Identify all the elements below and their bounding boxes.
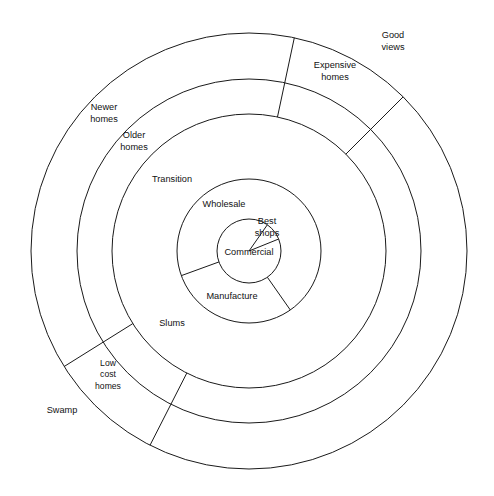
zone-label-expensive-homes-line-2: homes bbox=[321, 72, 349, 82]
zone-label-newer-homes: Newerhomes bbox=[90, 103, 118, 125]
zone-label-older-homes-line-2: homes bbox=[120, 142, 148, 152]
zone-label-swamp: Swamp bbox=[47, 405, 78, 415]
zone-label-newer-homes-line-1: Newer bbox=[91, 103, 118, 113]
zone-label-swamp-line-1: Swamp bbox=[47, 405, 78, 415]
zone-label-good-views-line-2: views bbox=[382, 42, 405, 52]
zone-label-older-homes: Olderhomes bbox=[120, 131, 148, 153]
zone-label-older-homes-line-1: Older bbox=[123, 131, 145, 141]
zone-label-slums-line-1: Slums bbox=[159, 318, 185, 328]
zone-label-good-views-line-1: Good bbox=[382, 31, 404, 41]
zone-label-best-shops: Bestshops bbox=[255, 217, 280, 239]
zone-label-best-shops-line-1: Best bbox=[258, 217, 277, 227]
zone-label-newer-homes-line-2: homes bbox=[90, 114, 118, 124]
zone-label-transition: Transition bbox=[152, 174, 192, 184]
zone-label-good-views: Goodviews bbox=[382, 31, 405, 53]
zone-label-low-cost-homes-line-2: cost bbox=[100, 369, 116, 379]
concentric-zone-diagram: GoodviewsExpensivehomesNewerhomesOlderho… bbox=[0, 0, 494, 496]
zone-label-low-cost-homes-line-1: Low bbox=[100, 358, 117, 368]
zone-label-wholesale: Wholesale bbox=[203, 199, 246, 209]
zone-label-manufacture: Manufacture bbox=[206, 291, 257, 301]
zone-label-commercial: Commercial bbox=[224, 247, 273, 257]
zone-label-low-cost-homes-line-3: homes bbox=[95, 381, 121, 391]
zone-label-expensive-homes-line-1: Expensive bbox=[314, 61, 356, 71]
zone-label-commercial-line-1: Commercial bbox=[224, 247, 273, 257]
zone-label-slums: Slums bbox=[159, 318, 185, 328]
zone-label-manufacture-line-1: Manufacture bbox=[206, 291, 257, 301]
zone-label-best-shops-line-2: shops bbox=[255, 228, 280, 238]
zone-label-wholesale-line-1: Wholesale bbox=[203, 199, 246, 209]
zone-label-transition-line-1: Transition bbox=[152, 174, 192, 184]
